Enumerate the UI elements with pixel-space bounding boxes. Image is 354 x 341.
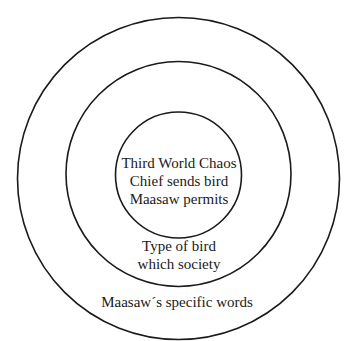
inner-label-line-2: Chief sends bird: [130, 173, 229, 189]
middle-label-line-2: which society: [138, 256, 221, 272]
middle-label-line-1: Type of bird: [142, 238, 216, 254]
outer-label-line-1: Maasaw´s specific words: [101, 294, 253, 310]
inner-label-line-3: Maasaw permits: [130, 191, 229, 207]
concentric-circles-diagram: Third World Chaos Chief sends bird Maasa…: [0, 0, 354, 341]
inner-label-line-1: Third World Chaos: [121, 155, 236, 171]
